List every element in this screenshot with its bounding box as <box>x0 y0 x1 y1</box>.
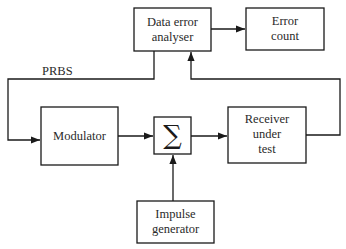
receiver-label-line2: under <box>253 127 282 141</box>
impulse-generator-block: Impulse generator <box>137 201 214 243</box>
analyser-label-line1: Data error <box>147 15 199 29</box>
modulator-label: Modulator <box>53 129 107 143</box>
impulse-label-line1: Impulse <box>155 207 196 221</box>
error-count-label-line2: count <box>271 29 299 43</box>
error-count-label-line1: Error <box>272 14 299 28</box>
impulse-label-line2: generator <box>152 222 200 236</box>
error-count-block: Error count <box>246 8 324 50</box>
receiver-label-line3: test <box>258 142 276 156</box>
modulator-block: Modulator <box>41 107 118 165</box>
sigma-icon: ∑ <box>163 120 182 150</box>
prbs-label: PRBS <box>42 64 73 78</box>
receiver-label-line1: Receiver <box>245 112 290 126</box>
analyser-label-line2: analyser <box>152 30 194 44</box>
receiver-under-test-block: Receiver under test <box>228 107 306 163</box>
summer-block: ∑ <box>154 117 191 154</box>
data-error-analyser-block: Data error analyser <box>134 8 211 51</box>
block-diagram: Data error analyser Error count PRBS Mod… <box>0 0 346 249</box>
